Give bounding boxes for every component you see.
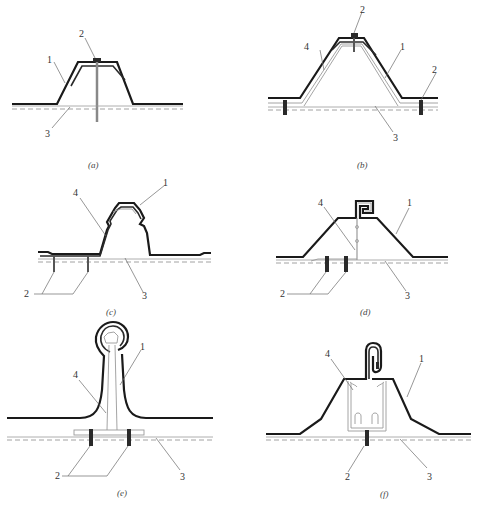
label-1: 1	[407, 197, 412, 208]
panel-b-screw-right	[419, 100, 423, 115]
caption-d: (d)	[360, 307, 371, 317]
label-2: 2	[280, 288, 285, 299]
label-3: 3	[180, 471, 185, 482]
panel-b-screw-top	[351, 33, 358, 38]
label-1: 1	[400, 41, 405, 52]
label-4: 4	[73, 369, 78, 380]
caption-a: (a)	[88, 160, 99, 170]
panel-d-sheet	[276, 201, 448, 257]
label-2: 2	[55, 470, 60, 481]
panel-a-screw-head	[93, 58, 101, 62]
panel-b-screw-left	[283, 100, 287, 115]
panel-c: 4 1 2 3 (c)	[24, 177, 211, 317]
panel-b-inner-sheet	[268, 44, 438, 103]
label-1: 1	[140, 341, 145, 352]
panel-a: 2 1 3 (a)	[12, 28, 183, 170]
panel-e: 4 1 2 3 (e)	[7, 322, 213, 498]
label-3: 3	[405, 290, 410, 301]
label-4: 4	[318, 197, 323, 208]
panel-c-sheet	[38, 203, 211, 255]
panel-f-clip-slots	[355, 413, 378, 424]
panel-b: 2 4 1 2 3 (b)	[268, 4, 438, 170]
panel-d: 4 1 2 3 (d)	[276, 197, 448, 317]
label-3: 3	[427, 471, 432, 482]
caption-e: (e)	[117, 488, 127, 498]
label-1: 1	[163, 177, 168, 188]
label-2-top: 2	[360, 4, 365, 15]
panel-e-screw-2	[127, 429, 131, 446]
label-2: 2	[345, 471, 350, 482]
caption-b: (b)	[357, 160, 368, 170]
roof-seam-diagram: 2 1 3 (a) 2 4 1 2 3 (b)	[0, 0, 479, 506]
panel-e-sheet-left	[7, 322, 128, 418]
panel-e-screw-1	[89, 429, 93, 446]
panel-f-screw	[365, 430, 369, 446]
label-3: 3	[45, 128, 50, 139]
label-4: 4	[73, 187, 78, 198]
label-4: 4	[325, 348, 330, 359]
panel-e-clip-head	[104, 332, 118, 343]
label-3: 3	[393, 132, 398, 143]
panel-e-clip-stem	[107, 345, 117, 430]
label-4: 4	[304, 41, 309, 52]
panel-d-screw-2	[344, 256, 348, 272]
caption-f: (f)	[380, 489, 389, 499]
label-1: 1	[47, 54, 52, 65]
panel-f-clip-body	[348, 381, 386, 431]
label-2: 2	[79, 28, 84, 39]
panel-c-clip	[40, 207, 141, 256]
panel-f: 4 1 2 3 (f)	[266, 343, 471, 499]
label-1: 1	[419, 353, 424, 364]
panel-d-screw-1	[325, 256, 329, 272]
panel-e-sheet-right	[122, 354, 213, 418]
label-3: 3	[142, 290, 147, 301]
panel-e-clip-base	[74, 430, 144, 435]
label-2-right: 2	[432, 64, 437, 75]
label-2: 2	[24, 288, 29, 299]
caption-c: (c)	[106, 307, 116, 317]
